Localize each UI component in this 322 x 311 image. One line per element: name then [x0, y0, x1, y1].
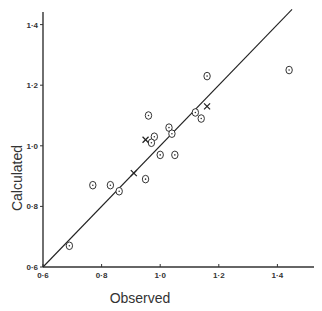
y-tick-label: 1·4: [26, 21, 38, 30]
x-tick-label: 1·4: [272, 271, 284, 280]
y-axis-label: Calculated: [9, 145, 25, 211]
x-tick-label: 0·6: [37, 271, 49, 280]
y-tick-label: 1·0: [26, 142, 38, 151]
circle-dot-marker: [145, 112, 151, 120]
cross-marker: [204, 103, 210, 109]
y-tick-label: 0·8: [26, 202, 38, 211]
circle-dot-marker: [66, 242, 72, 250]
y-tick-label: 0·6: [26, 263, 38, 272]
circle-dot-marker: [157, 151, 163, 159]
circle-dot-marker: [90, 181, 96, 189]
circle-dot-marker: [172, 151, 178, 159]
x-tick-label: 1·0: [154, 271, 166, 280]
identity-line: [43, 9, 292, 267]
circle-dot-marker: [116, 187, 122, 195]
cross-marker: [143, 137, 149, 143]
x-axis-label: Observed: [110, 290, 171, 306]
data-points: [66, 66, 292, 249]
axis-labels: ObservedCalculated: [9, 145, 170, 306]
circle-dot-marker: [192, 109, 198, 117]
circle-dot-marker: [169, 130, 175, 138]
circle-dot-marker: [204, 72, 210, 80]
circle-dot-marker: [198, 115, 204, 123]
scatter-plot: 0·60·81·01·21·40·60·81·01·21·4 ObservedC…: [0, 0, 322, 311]
circle-dot-marker: [142, 175, 148, 183]
cross-marker: [131, 170, 137, 176]
y-tick-label: 1·2: [26, 81, 38, 90]
circle-dot-marker: [148, 139, 154, 147]
x-tick-label: 1·2: [213, 271, 225, 280]
circle-dot-marker: [107, 181, 113, 189]
circle-dot-marker: [286, 66, 292, 74]
x-tick-label: 0·8: [96, 271, 108, 280]
